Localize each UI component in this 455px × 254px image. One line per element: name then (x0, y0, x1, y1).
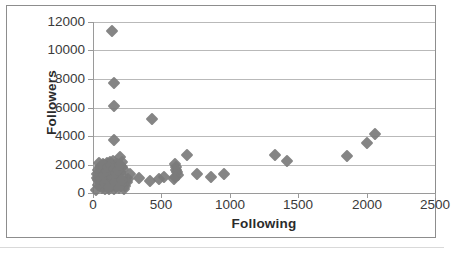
data-point (341, 150, 354, 163)
plot-area (93, 22, 435, 193)
y-axis-tick-label: 4000 (27, 129, 85, 143)
data-point (107, 100, 120, 113)
x-axis-line (93, 193, 436, 194)
x-axis-tick-label: 1000 (200, 198, 260, 212)
y-axis-tick-label: 12000 (27, 15, 85, 29)
data-point (360, 137, 373, 150)
data-point (106, 25, 119, 38)
x-axis-title: Following (93, 216, 435, 231)
x-axis-tick-label: 500 (131, 198, 191, 212)
data-point (368, 127, 381, 140)
x-axis-tick-label: 2000 (337, 198, 397, 212)
data-point (218, 168, 231, 181)
data-point (145, 113, 158, 126)
x-axis-tick-label: 2500 (405, 198, 455, 212)
y-axis-tick-label: 6000 (27, 101, 85, 115)
y-axis-tick-label: 10000 (27, 43, 85, 57)
data-point (107, 134, 120, 147)
x-axis-tick-label: 1500 (268, 198, 328, 212)
data-point (191, 167, 204, 180)
data-point (204, 170, 217, 183)
y-axis-tick-label: 2000 (27, 158, 85, 172)
y-axis-tick-label: 8000 (27, 72, 85, 86)
data-point (181, 148, 194, 161)
data-point (269, 149, 282, 162)
scan-artifact-line (0, 247, 444, 248)
x-axis-tick-label: 0 (63, 198, 123, 212)
data-point (107, 76, 120, 89)
data-point (281, 155, 294, 168)
